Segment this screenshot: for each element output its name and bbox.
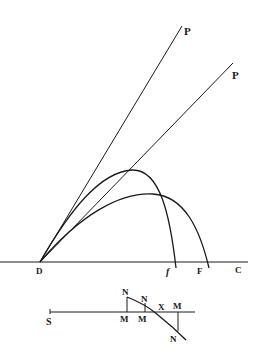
trajectory-curve-Df [40,170,176,268]
label-M1: M [120,314,129,324]
label-M2: M [138,314,147,324]
label-S: S [46,316,52,327]
label-P-steep: P [184,25,191,37]
label-C: C [235,265,242,275]
label-F: F [197,266,203,276]
lower-diagram: S N N N M M M X [46,287,195,344]
upper-diagram: P P D f F C [0,25,248,277]
label-N3: N [170,334,177,344]
trajectory-curve-DF [40,194,209,268]
label-M3: M [173,301,182,311]
label-P-shallow: P [232,69,239,81]
geometric-figure: P P D f F C S N N N M M M X [0,0,263,363]
label-N2: N [141,294,148,304]
label-X: X [158,302,165,312]
tangent-line-DP-steep [40,26,182,262]
label-f: f [166,266,171,277]
label-D: D [36,266,43,276]
label-N1: N [122,287,129,297]
